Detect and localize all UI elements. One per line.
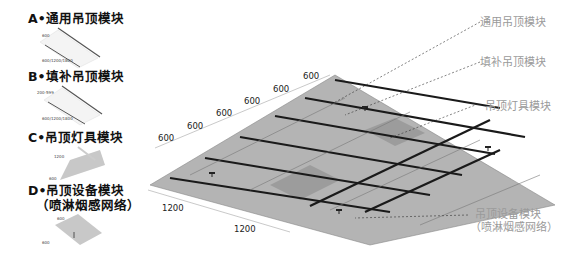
module-a-title: A•通用吊顶模块 [28, 12, 124, 26]
dim-bottom-1: 1200 [162, 203, 184, 213]
module-b-title: B•填补吊顶模块 [28, 70, 124, 84]
module-c-title: C•吊顶灯具模块 [28, 131, 123, 145]
callout-equipment-sub: （喷淋烟感网络） [470, 221, 558, 234]
callout-lighting: 吊顶灯具模块 [485, 100, 551, 113]
dim-top-5: 600 [273, 84, 289, 94]
module-d-dim-1: 600 [57, 216, 65, 221]
callout-general: 通用吊顶模块 [480, 16, 546, 29]
module-b-dim-1: 200-599 [37, 90, 54, 95]
callout-equipment: 吊顶设备模块 [475, 208, 541, 221]
dim-top-1: 600 [158, 133, 174, 143]
module-b-dim-2: 600/1200/1800 [42, 116, 73, 121]
dim-top-2: 600 [187, 121, 203, 131]
module-c-dim-1: 1200 [54, 154, 64, 159]
module-d-dim-2: 600 [42, 240, 50, 245]
callout-filler: 填补吊顶模块 [480, 56, 546, 69]
module-a-dim-1: 600 [42, 33, 50, 38]
module-d-title: D•吊顶设备模块 [28, 184, 124, 198]
module-a-dim-2: 600/1200/1800 [42, 58, 73, 63]
dim-bottom-2: 1200 [234, 224, 256, 234]
dim-top-3: 600 [216, 108, 232, 118]
dim-top-4: 600 [244, 96, 260, 106]
module-c-icon [60, 147, 105, 180]
module-d-subtitle: （喷淋烟感网络） [36, 199, 140, 213]
dim-top-6: 600 [303, 71, 319, 81]
module-c-dim-2: 600 [49, 176, 57, 181]
